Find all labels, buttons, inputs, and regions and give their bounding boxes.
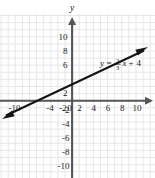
- y-tick-label-neg2: -2: [62, 105, 70, 115]
- linear-function-graph: y -10 -4 -2 0 2 4 6 8 10 10 8 6 2 -2 -4 …: [0, 0, 155, 178]
- y-tick-label-neg10: -10: [58, 161, 70, 171]
- x-tick-label-2: 2: [77, 103, 82, 113]
- equation-variable: x: [122, 58, 127, 68]
- x-tick-label-neg4: -4: [46, 103, 54, 113]
- x-tick-label-8: 8: [120, 103, 125, 113]
- coordinate-plane-svg: y -10 -4 -2 0 2 4 6 8 10 10 8 6 2 -2 -4 …: [0, 0, 155, 178]
- y-tick-label-2: 2: [63, 88, 68, 98]
- y-tick-label-10: 10: [59, 32, 69, 42]
- y-tick-label-neg8: -8: [62, 147, 70, 157]
- y-axis-label: y: [69, 3, 75, 13]
- equation-fraction-denominator: 3: [116, 64, 119, 71]
- y-tick-label-neg6: -6: [62, 133, 70, 143]
- y-tick-label-8: 8: [63, 46, 68, 56]
- x-tick-label-4: 4: [92, 103, 97, 113]
- x-tick-label-neg10: -10: [9, 103, 21, 113]
- equation-equals: =: [107, 58, 112, 68]
- y-tick-label-neg4: -4: [62, 119, 70, 129]
- x-tick-label-10: 10: [133, 103, 143, 113]
- equation-fraction-numerator: 2: [116, 57, 119, 64]
- grid-lines: [0, 14, 155, 178]
- equation-constant: 4: [137, 58, 142, 68]
- y-tick-label-6: 6: [63, 60, 68, 70]
- x-tick-label-6: 6: [106, 103, 111, 113]
- equation-plus: +: [129, 58, 134, 68]
- equation-lhs: y: [99, 58, 104, 68]
